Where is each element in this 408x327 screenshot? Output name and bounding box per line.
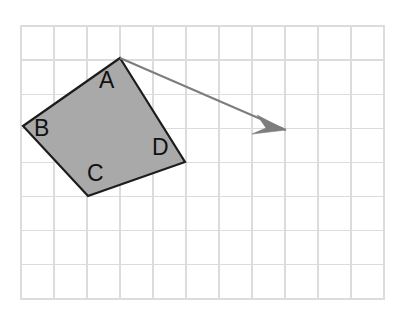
vertex-label-a: A (99, 69, 114, 92)
vertex-label-d: D (152, 136, 169, 159)
vertex-label-c: C (87, 162, 104, 185)
vertex-label-b: B (34, 117, 49, 140)
figure-canvas: ABCD (0, 0, 408, 327)
figure-svg (0, 0, 408, 327)
